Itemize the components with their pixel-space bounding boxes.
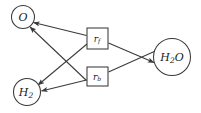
node-o-label: O <box>18 11 27 24</box>
diagram-canvas: O H2 H2O rf rb <box>0 0 201 113</box>
species-node-h2o[interactable]: H2O <box>154 39 191 76</box>
species-node-o[interactable]: O <box>12 6 35 29</box>
rate-node-rb[interactable]: rb <box>87 67 108 86</box>
edge-rb-to-o <box>30 27 87 81</box>
edge-rf-to-h2 <box>38 44 87 85</box>
rate-node-rf[interactable]: rf <box>87 28 108 49</box>
edge-rf-to-h2o <box>109 43 155 63</box>
reaction-network-diagram: O H2 H2O rf rb <box>0 0 201 113</box>
edge-rb-to-h2 <box>42 80 87 91</box>
species-node-h2[interactable]: H2 <box>14 79 41 106</box>
edge-rf-to-o <box>34 23 87 36</box>
